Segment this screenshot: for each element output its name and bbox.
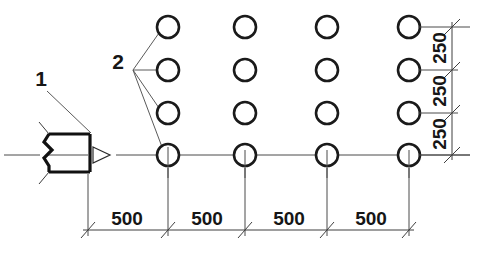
hole-circle: [157, 102, 179, 124]
reference-label-2-text: 2: [112, 50, 124, 73]
hole-column-4: [398, 16, 420, 166]
dimension-label-250-3: 250: [429, 118, 450, 150]
hole-circle: [398, 102, 420, 124]
hole-column-3: [316, 16, 338, 166]
reference-label-1-text: 1: [35, 67, 47, 90]
dimension-label-500-2: 500: [191, 208, 223, 229]
hole-circle: [316, 102, 338, 124]
hole-circle: [234, 16, 256, 38]
hole-circle: [316, 59, 338, 81]
hole-circle: [316, 16, 338, 38]
dimension-label-250-2: 250: [429, 75, 450, 107]
horizontal-dimension-chain: 500 500 500 500: [81, 168, 416, 238]
hole-circle: [234, 102, 256, 124]
break-line-body: [39, 122, 90, 184]
reference-callout-1: 1: [35, 67, 91, 133]
cad-drawing-svg: 1 2: [0, 0, 479, 260]
dimension-label-500-1: 500: [111, 208, 143, 229]
hole-center-marks: [168, 147, 409, 178]
hole-circle: [234, 59, 256, 81]
hole-column-2: [234, 16, 256, 166]
hole-circle: [157, 59, 179, 81]
technical-drawing-canvas: 1 2: [0, 0, 479, 260]
hole-circle: [398, 16, 420, 38]
hole-circle: [398, 59, 420, 81]
dimension-label-500-3: 500: [273, 208, 305, 229]
reference-callout-2: 2: [112, 33, 162, 147]
flow-arrowhead-icon: [93, 147, 110, 163]
hole-grid: [157, 16, 420, 166]
dimension-label-250-1: 250: [429, 32, 450, 64]
hole-circle: [157, 16, 179, 38]
vertical-dimension-chain: 250 250 250: [418, 19, 470, 163]
dimension-label-500-4: 500: [355, 208, 387, 229]
